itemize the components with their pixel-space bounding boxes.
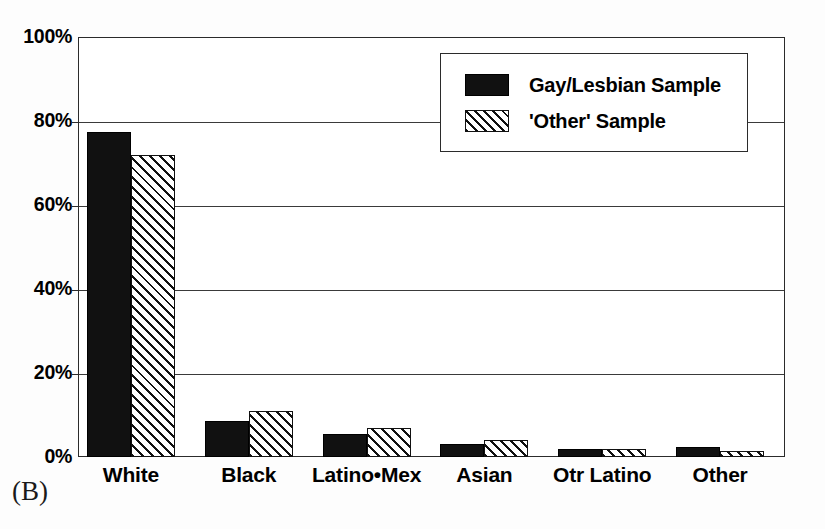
y-tickmark-60% xyxy=(72,206,79,207)
chart-legend: Gay/Lesbian Sample 'Other' Sample xyxy=(440,53,748,152)
y-tick-label-40%: 40% xyxy=(2,279,72,299)
x-tick-label: Asian xyxy=(456,463,512,487)
legend-entry-gay-lesbian-sample: Gay/Lesbian Sample xyxy=(465,67,747,103)
legend-swatch-solid-icon xyxy=(465,74,509,96)
x-axis: WhiteBlackLatino•MexAsianOtr LatinoOther xyxy=(78,463,785,503)
y-tick-label-60%: 60% xyxy=(2,195,72,215)
y-tickmark-20% xyxy=(72,374,79,375)
panel-letter: (B) xyxy=(12,476,48,507)
y-axis: 0%20%40%60%80%100% xyxy=(0,37,72,457)
x-tick-label: Otr Latino xyxy=(553,463,651,487)
x-tick-label: Latino•Mex xyxy=(312,463,421,487)
legend-label-other-sample: 'Other' Sample xyxy=(529,110,666,133)
y-tickmark-80% xyxy=(72,122,79,123)
legend-entry-other-sample: 'Other' Sample xyxy=(465,103,747,139)
figure-panel-b: 0%20%40%60%80%100% Gay/Lesbian Sample 'O… xyxy=(0,0,825,529)
legend-swatch-hatched-icon xyxy=(465,110,509,132)
y-tick-label-80%: 80% xyxy=(2,111,72,131)
gridline-20% xyxy=(79,374,784,375)
gridline-60% xyxy=(79,206,784,207)
y-tick-label-0%: 0% xyxy=(2,447,72,467)
x-tick-label: Black xyxy=(221,463,276,487)
x-tick-label: White xyxy=(103,463,159,487)
y-tick-label-100%: 100% xyxy=(2,27,72,47)
x-tick-label: Other xyxy=(693,463,748,487)
gridline-40% xyxy=(79,290,784,291)
legend-label-gay-lesbian-sample: Gay/Lesbian Sample xyxy=(529,74,721,97)
y-tickmark-40% xyxy=(72,290,79,291)
y-tick-label-20%: 20% xyxy=(2,363,72,383)
